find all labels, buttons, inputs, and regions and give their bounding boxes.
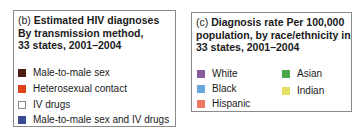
swatch-white <box>197 70 205 78</box>
panel-b-title-line2: By transmission method, <box>18 27 143 39</box>
swatch-hispanic <box>197 100 205 108</box>
legend-label: Male-to-male sex <box>33 67 110 79</box>
legend-label: White <box>212 68 238 80</box>
legend-panel-b: (b) Estimated HIV diagnoses By transmiss… <box>13 10 176 127</box>
legend-label: Asian <box>297 68 322 80</box>
legend-panel-c: (c) Diagnosis rate Per 100,000 populatio… <box>191 12 352 112</box>
panel-b-prefix: (b) <box>18 14 31 26</box>
legend-label: Heterosexual contact <box>33 83 127 95</box>
swatch-black <box>197 85 205 93</box>
legend-label: IV drugs <box>33 99 70 111</box>
panel-c-title-line3: 33 states, 2001–2004 <box>196 41 299 53</box>
panel-c-title-line1: Diagnosis rate Per 100,000 <box>211 16 344 28</box>
swatch-iv-drugs <box>18 101 26 109</box>
panel-c-prefix: (c) <box>196 16 208 28</box>
legend-label: Male-to-male sex and IV drugs <box>33 114 169 126</box>
panel-c-title: (c) Diagnosis rate Per 100,000 populatio… <box>196 16 351 54</box>
swatch-male-to-male <box>18 69 26 77</box>
legend-label: Indian <box>297 85 324 97</box>
legend-label: Hispanic <box>212 98 250 110</box>
legend-label: Black <box>212 83 236 95</box>
panel-c-title-line2: population, by race/ethnicity in <box>196 29 351 41</box>
panel-b-title: (b) Estimated HIV diagnoses By transmiss… <box>18 14 159 52</box>
swatch-male-to-male-iv <box>18 116 26 124</box>
panel-b-title-line1: Estimated HIV diagnoses <box>34 14 159 26</box>
swatch-heterosexual <box>18 85 26 93</box>
panel-b-title-line3: 33 states, 2001–2004 <box>18 39 121 51</box>
swatch-indian <box>282 87 290 95</box>
swatch-asian <box>282 70 290 78</box>
